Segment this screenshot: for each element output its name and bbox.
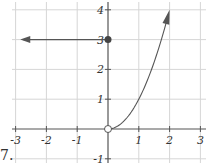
closed-dot (105, 36, 112, 43)
arrow-left-icon (20, 36, 30, 43)
piecewise-graph: -3-2-11234321-1 7. (0, 0, 206, 163)
x-tick-label: -2 (41, 134, 52, 147)
x-tick-label: 1 (135, 134, 142, 147)
arrow-up-icon (163, 10, 170, 25)
open-circle (105, 126, 112, 133)
x-tick-label: 2 (165, 134, 173, 147)
y-tick-label: 1 (97, 93, 104, 106)
x-tick-label: -1 (72, 134, 83, 147)
problem-number: 7. (0, 147, 13, 163)
tick-labels: -3-2-11234321-1 (10, 4, 204, 163)
y-tick-label: 2 (96, 63, 104, 76)
y-tick-label: 4 (96, 4, 104, 17)
x-tick-label: -3 (10, 134, 21, 147)
y-tick-label: -1 (93, 153, 104, 163)
x-tick-label: 3 (197, 134, 204, 147)
